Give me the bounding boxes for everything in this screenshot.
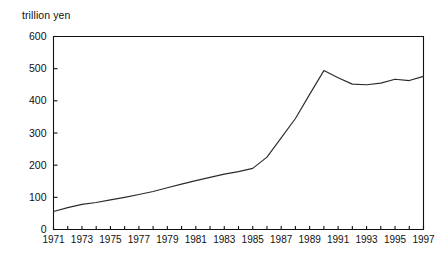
- y-axis-tick-label: 200: [29, 159, 47, 171]
- x-axis-tick-label: 1983: [213, 234, 236, 245]
- y-axis-tick-label: 300: [29, 127, 47, 139]
- y-axis-unit-label: trillion yen: [22, 9, 70, 21]
- y-axis-tick-label: 400: [29, 94, 47, 106]
- chart-container: trillion yen 010020030040050060019711973…: [0, 0, 448, 264]
- x-axis-tick-label: 1989: [299, 234, 322, 245]
- x-axis-tick-label: 1987: [270, 234, 293, 245]
- x-axis-tick-label: 1993: [355, 234, 378, 245]
- data-series-line: [54, 71, 424, 212]
- y-axis-tick-label: 100: [29, 191, 47, 203]
- x-axis-tick-label: 1977: [128, 234, 151, 245]
- x-axis-tick-label: 1979: [156, 234, 179, 245]
- x-axis-tick-label: 1975: [99, 234, 122, 245]
- y-axis-tick-label: 600: [29, 30, 47, 42]
- x-axis-tick-label: 1991: [327, 234, 350, 245]
- x-axis-tick-label: 1973: [71, 234, 94, 245]
- x-axis-tick-label: 1997: [412, 234, 435, 245]
- x-axis-tick-label: 1981: [185, 234, 208, 245]
- x-axis-tick-label: 1985: [242, 234, 265, 245]
- x-axis-tick-label: 1971: [42, 234, 65, 245]
- x-axis-tick-label: 1995: [384, 234, 407, 245]
- line-chart-plot: 0100200300400500600197119731975197719791…: [0, 0, 448, 264]
- y-axis-tick-label: 500: [29, 62, 47, 74]
